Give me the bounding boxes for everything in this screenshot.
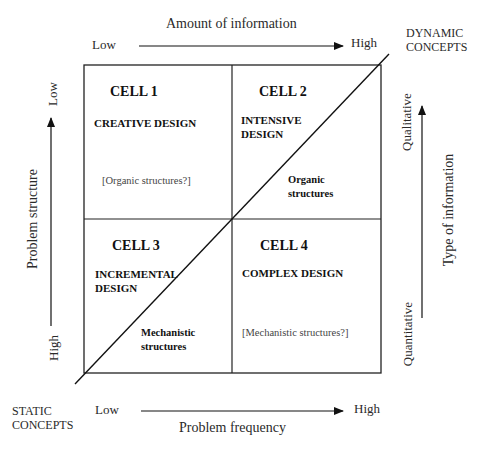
cell-3-name-line1: INCREMENTAL [95,267,178,281]
dynamic-concepts-line1: DYNAMIC [406,26,467,40]
cell-4-name: COMPLEX DESIGN [242,266,343,280]
cell-4-id: CELL 4 [260,238,308,254]
left-axis-top-label: Low [45,79,61,109]
dynamic-concepts-line2: CONCEPTS [406,40,467,54]
cell-1-name: CREATIVE DESIGN [94,116,196,130]
left-axis-title: Problem structure [25,159,41,279]
cell-3-name-line2: DESIGN [95,281,178,295]
diagram-lines [0,0,489,456]
static-concepts-line2: CONCEPTS [12,418,73,432]
cell-2-name-line2: DESIGN [241,127,302,141]
right-axis-title: Type of information [441,145,457,275]
cell-2-name-line1: INTENSIVE [241,113,302,127]
organic-structures-label: Organic structures [288,173,333,201]
mechanistic-structures-line1: Mechanistic [141,326,195,340]
dynamic-concepts-label: DYNAMIC CONCEPTS [406,26,467,54]
cell-4-note: [Mechanistic structures?] [242,327,348,338]
organic-structures-line1: Organic [288,173,333,187]
bottom-axis-low-label: Low [95,402,119,418]
organic-structures-line2: structures [288,187,333,201]
bottom-axis-high-label: High [354,401,380,417]
top-axis-high-label: High [351,35,377,51]
cell-3-id: CELL 3 [112,238,160,254]
static-concepts-line1: STATIC [12,404,73,418]
cell-3-name: INCREMENTAL DESIGN [95,267,178,295]
right-axis-top-label: Qualitative [399,87,415,157]
right-axis-bottom-label: Quantitative [400,292,416,376]
mechanistic-structures-label: Mechanistic structures [141,326,195,354]
left-axis-bottom-label: High [46,332,62,364]
cell-2-name: INTENSIVE DESIGN [241,113,302,141]
cell-2-id: CELL 2 [259,84,307,100]
cell-1-id: CELL 1 [110,84,158,100]
bottom-axis-title: Problem frequency [179,420,286,436]
mechanistic-structures-line2: structures [141,340,195,354]
cell-1-note: [Organic structures?] [102,175,191,186]
top-axis-low-label: Low [92,37,116,53]
static-concepts-label: STATIC CONCEPTS [12,404,73,432]
top-axis-title: Amount of information [166,16,297,32]
